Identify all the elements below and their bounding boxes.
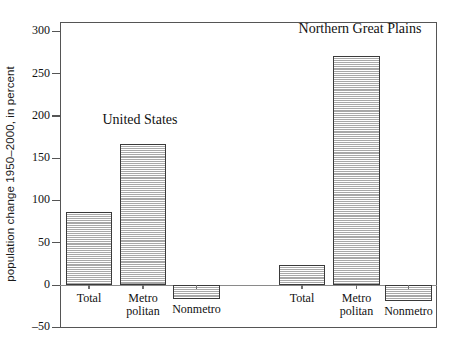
y-tick-mark: [52, 31, 60, 32]
group-title-united-states: United States: [102, 112, 177, 128]
group-title-northern-great-plains: Northern Great Plains: [299, 21, 422, 37]
x-tick-mark: [408, 285, 409, 289]
y-tick-mark: [52, 73, 60, 74]
y-tick-mark: [52, 285, 60, 286]
category-label: Total: [290, 291, 315, 306]
x-tick-mark: [356, 285, 357, 289]
bar-ngp-0: [279, 265, 325, 285]
x-tick-mark: [196, 285, 197, 289]
x-tick-mark: [301, 285, 302, 289]
y-tick-mark: [52, 200, 60, 201]
y-tick-label: 150: [8, 150, 50, 165]
category-label: Nonmetro: [172, 302, 221, 317]
y-tick-label: 0: [8, 277, 50, 292]
y-tick-label: 100: [8, 192, 50, 207]
population-change-bar-chart: population change 1950–2000, in percent …: [0, 0, 453, 348]
y-tick-mark: [52, 158, 60, 159]
bar-us-0: [66, 212, 112, 285]
y-tick-label: 250: [8, 66, 50, 81]
plot-area: [60, 22, 437, 328]
x-tick-mark: [88, 285, 89, 289]
category-label-line2: politan: [126, 304, 159, 319]
category-label: Total: [77, 291, 102, 306]
y-tick-mark: [52, 115, 60, 116]
y-tick-label: 50: [8, 235, 50, 250]
y-tick-label: 300: [8, 23, 50, 38]
category-label-line2: politan: [340, 304, 373, 319]
y-tick-mark: [52, 327, 60, 328]
bar-us-1: [120, 144, 166, 285]
y-tick-label: 200: [8, 108, 50, 123]
y-tick-label: –50: [8, 319, 50, 334]
x-tick-mark: [142, 285, 143, 289]
category-label: Nonmetro: [384, 304, 433, 319]
y-axis-title: population change 1950–2000, in percent: [0, 0, 20, 348]
zero-baseline: [60, 285, 437, 286]
y-tick-mark: [52, 242, 60, 243]
bar-ngp-1: [333, 56, 380, 285]
